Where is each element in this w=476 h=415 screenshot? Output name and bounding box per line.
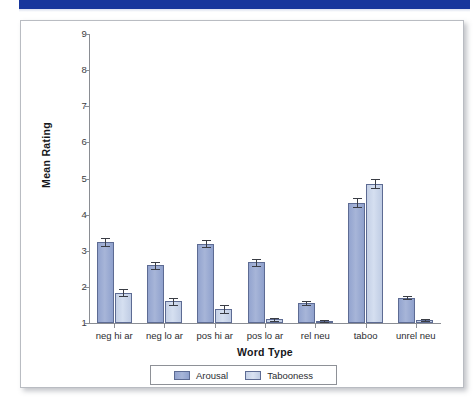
legend-entry-tabooness: Tabooness — [245, 370, 313, 381]
legend-label-tabooness: Tabooness — [267, 370, 313, 381]
x-tick-mark — [164, 324, 165, 328]
error-bar — [206, 240, 207, 248]
error-bar-cap — [320, 322, 329, 323]
error-bar-cap — [119, 296, 128, 297]
x-tick-label-neg-hi-ar: neg hi ar — [96, 330, 133, 341]
x-tick-label-taboo: taboo — [354, 330, 378, 341]
top-banner — [19, 0, 470, 9]
legend-swatch-tabooness — [245, 371, 261, 380]
error-bar — [375, 179, 376, 188]
x-tick-label-neg-lo-ar: neg lo ar — [146, 330, 183, 341]
error-bar-cap — [371, 179, 380, 180]
y-axis-title: Mean Rating — [40, 85, 52, 225]
chart-legend: ArousalTabooness — [150, 365, 337, 385]
x-tick-label-rel-neu: rel neu — [301, 330, 330, 341]
bar-rel-neu-arousal — [298, 303, 315, 323]
error-bar-cap — [403, 296, 412, 297]
error-bar-cap — [421, 321, 430, 322]
y-tick-mark — [85, 323, 89, 324]
legend-swatch-arousal — [174, 371, 190, 380]
error-bar — [155, 262, 156, 269]
error-bar-cap — [252, 259, 261, 260]
error-bar-cap — [353, 198, 362, 199]
x-axis-title: Word Type — [89, 346, 441, 358]
error-bar-cap — [371, 188, 380, 189]
bar-neg-lo-ar-arousal — [147, 265, 164, 323]
x-tick-mark — [265, 324, 266, 328]
error-bar — [357, 198, 358, 207]
x-tick-mark — [416, 324, 417, 328]
error-bar-cap — [101, 246, 110, 247]
error-bar-cap — [403, 299, 412, 300]
bar-pos-hi-ar-arousal — [197, 244, 214, 323]
legend-label-arousal: Arousal — [196, 370, 228, 381]
error-bar-cap — [421, 319, 430, 320]
error-bar-cap — [151, 269, 160, 270]
plot-area: 987654321 Mean Rating neg hi arneg lo ar… — [21, 21, 465, 389]
error-bar-cap — [101, 238, 110, 239]
error-bar-cap — [302, 305, 311, 306]
x-tick-mark — [215, 324, 216, 328]
x-tick-label-pos-hi-ar: pos hi ar — [196, 330, 232, 341]
error-bar-cap — [202, 240, 211, 241]
error-bar-cap — [220, 305, 229, 306]
x-tick-mark — [366, 324, 367, 328]
error-bar-cap — [252, 266, 261, 267]
error-bar-cap — [169, 298, 178, 299]
error-bar-cap — [302, 301, 311, 302]
error-bar — [105, 238, 106, 246]
bar-neg-hi-ar-arousal — [97, 242, 114, 323]
error-bar-cap — [353, 207, 362, 208]
bar-pos-lo-ar-arousal — [248, 262, 265, 323]
error-bar-cap — [320, 320, 329, 321]
top-banner-shadow — [19, 9, 470, 12]
bar-unrel-neu-arousal — [398, 298, 415, 323]
bars-layer — [89, 34, 441, 323]
error-bar — [123, 289, 124, 296]
error-bar — [173, 298, 174, 305]
x-tick-label-unrel-neu: unrel neu — [396, 330, 436, 341]
x-tick-label-pos-lo-ar: pos lo ar — [247, 330, 283, 341]
error-bar — [224, 305, 225, 313]
error-bar-cap — [151, 262, 160, 263]
error-bar-cap — [270, 318, 279, 319]
error-bar-cap — [270, 321, 279, 322]
error-bar-cap — [220, 313, 229, 314]
x-tick-mark — [315, 324, 316, 328]
x-tick-mark — [114, 324, 115, 328]
error-bar-cap — [169, 305, 178, 306]
bar-taboo-tabooness — [366, 184, 383, 323]
figure-panel: 987654321 Mean Rating neg hi arneg lo ar… — [20, 20, 464, 388]
legend-entry-arousal: Arousal — [174, 370, 228, 381]
error-bar-cap — [119, 289, 128, 290]
bar-taboo-arousal — [348, 203, 365, 323]
error-bar-cap — [202, 247, 211, 248]
